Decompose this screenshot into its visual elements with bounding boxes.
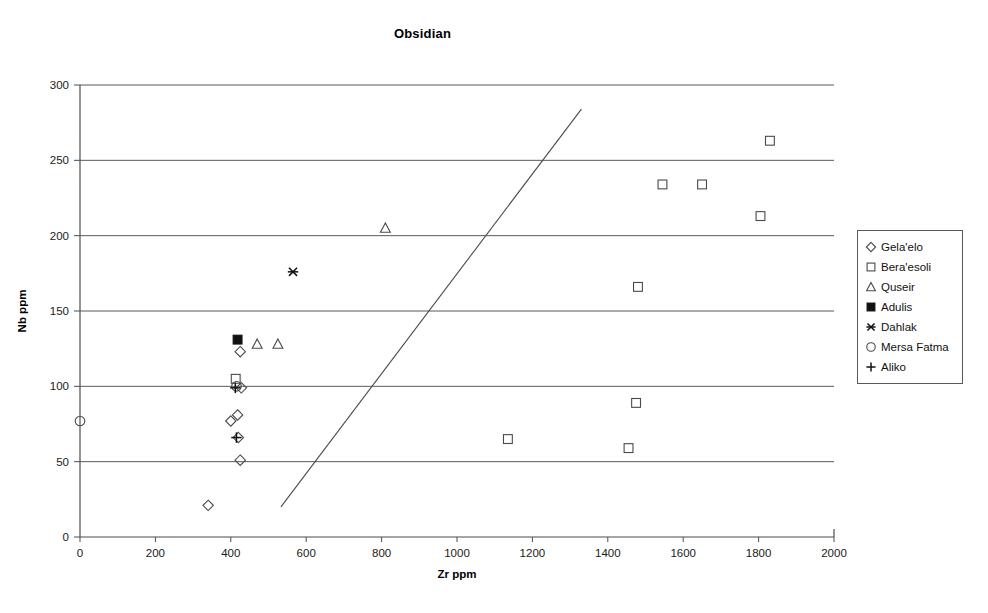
legend-item-label: Dahlak <box>881 320 917 334</box>
series-mersa-fatma <box>75 382 241 426</box>
marker-square-2 <box>624 444 633 453</box>
filled-square-icon <box>864 300 878 314</box>
x-tick-label-1600: 1600 <box>670 547 696 559</box>
legend-item-dahlak[interactable]: Dahlak <box>864 317 957 337</box>
x-tick-label-1400: 1400 <box>595 547 621 559</box>
marker-plus-legend <box>866 362 875 371</box>
circle-icon <box>864 340 878 354</box>
legend-item-bera-esoli[interactable]: Bera'esoli <box>864 257 957 277</box>
series-dahlak <box>288 268 298 276</box>
x-tick-label-1800: 1800 <box>746 547 772 559</box>
x-tick-label-600: 600 <box>297 547 316 559</box>
marker-square-6 <box>698 180 707 189</box>
x-tick-label-1200: 1200 <box>520 547 546 559</box>
plot-area: 0200400600800100012001400160018002000 05… <box>0 0 988 613</box>
series-gela-elo <box>203 346 247 510</box>
x-tick-label-2000: 2000 <box>821 547 847 559</box>
diamond-icon <box>864 240 878 254</box>
legend-item-label: Aliko <box>881 360 906 374</box>
legend-item-label: Quseir <box>881 280 915 294</box>
asterisk-icon <box>864 320 878 334</box>
legend-item-aliko[interactable]: Aliko <box>864 357 957 377</box>
marker-triangle-2 <box>380 223 390 232</box>
y-axis-ticks: 050100150200250300 <box>50 79 80 543</box>
marker-filled-square-legend <box>867 303 875 311</box>
marker-triangle-1 <box>273 339 283 348</box>
marker-square-1 <box>503 435 512 444</box>
square-icon <box>864 260 878 274</box>
marker-diamond-4 <box>235 455 245 465</box>
marker-triangle <box>252 339 262 348</box>
x-tick-label-200: 200 <box>146 547 165 559</box>
x-tick-label-0: 0 <box>77 547 83 559</box>
marker-square-4 <box>634 282 643 291</box>
legend-item-label: Mersa Fatma <box>881 340 949 354</box>
y-tick-label-0: 0 <box>63 531 69 543</box>
marker-square-5 <box>658 180 667 189</box>
x-tick-label-400: 400 <box>221 547 240 559</box>
obsidian-scatter-chart: Obsidian 0200400600800100012001400160018… <box>0 0 988 613</box>
series-bera-esoli <box>231 136 774 452</box>
legend-item-gela-elo[interactable]: Gela'elo <box>864 237 957 257</box>
legend-item-adulis[interactable]: Adulis <box>864 297 957 317</box>
marker-circle-legend <box>867 343 875 351</box>
y-tick-label-150: 150 <box>50 305 69 317</box>
marker-diamond <box>203 500 213 510</box>
marker-triangle-legend <box>867 282 876 290</box>
plus-icon <box>864 360 878 374</box>
legend-item-label: Adulis <box>881 300 912 314</box>
x-axis-ticks: 0200400600800100012001400160018002000 <box>77 537 847 559</box>
x-tick-label-800: 800 <box>372 547 391 559</box>
trend-line-segment <box>281 109 581 507</box>
y-tick-label-100: 100 <box>50 380 69 392</box>
y-tick-label-50: 50 <box>56 456 69 468</box>
y-tick-label-250: 250 <box>50 154 69 166</box>
x-axis-title: Zr ppm <box>438 568 477 580</box>
trend-line <box>281 109 581 507</box>
y-tick-label-200: 200 <box>50 230 69 242</box>
legend-item-mersa-fatma[interactable]: Mersa Fatma <box>864 337 957 357</box>
series-quseir <box>252 223 390 348</box>
marker-asterisk-legend <box>866 323 875 330</box>
legend-item-label: Gela'elo <box>881 240 923 254</box>
marker-square-legend <box>867 263 875 271</box>
series-adulis <box>233 335 242 344</box>
legend-item-quseir[interactable]: Quseir <box>864 277 957 297</box>
data-point-markers <box>75 136 774 510</box>
marker-square-8 <box>765 136 774 145</box>
marker-filled-square <box>233 335 242 344</box>
marker-asterisk <box>288 268 298 276</box>
marker-square-3 <box>632 398 641 407</box>
legend-item-label: Bera'esoli <box>881 260 931 274</box>
legend: Gela'eloBera'esoliQuseirAdulisDahlakMers… <box>857 230 963 384</box>
y-tick-label-300: 300 <box>50 79 69 91</box>
marker-diamond-legend <box>866 242 875 251</box>
marker-square-7 <box>756 212 765 221</box>
x-tick-label-1000: 1000 <box>444 547 470 559</box>
y-axis-title: Nb ppm <box>16 290 28 333</box>
triangle-icon <box>864 280 878 294</box>
marker-diamond-6 <box>235 346 245 356</box>
